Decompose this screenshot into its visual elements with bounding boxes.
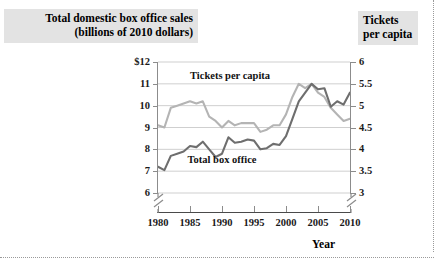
right-axis-tick: 5 [359, 100, 399, 111]
series-line-tickets-per-capita [158, 84, 350, 132]
right-axis-tick: 5.5 [359, 78, 399, 89]
x-axis-tick-mark [286, 206, 287, 212]
left-axis-tick: $12 [110, 56, 150, 67]
right-axis-tick-mark [350, 171, 356, 172]
x-axis-tick-mark [190, 206, 191, 212]
left-axis-tick-mark [153, 128, 158, 129]
right-axis-tick-mark [350, 193, 356, 194]
x-axis-tick: 2010 [330, 217, 370, 228]
left-axis-tick-mark [153, 106, 158, 107]
left-axis-tick-mark [153, 62, 158, 63]
left-axis-tick: 11 [110, 78, 150, 89]
left-axis-tick: 7 [110, 165, 150, 176]
x-axis-tick-mark [158, 206, 159, 212]
right-axis-tick: 3.5 [359, 165, 399, 176]
left-axis-break-icon [150, 193, 168, 213]
right-axis-tick: 4.5 [359, 122, 399, 133]
figure-border-bottom [0, 257, 434, 258]
right-axis-title: Tickets per capita [358, 11, 418, 45]
left-axis-tick-mark [153, 171, 158, 172]
x-axis-line [157, 212, 351, 213]
left-axis-title: Total domestic box office sales (billion… [4, 9, 198, 43]
x-axis-tick-mark [318, 206, 319, 212]
left-axis-tick-mark [153, 193, 158, 194]
annotation-total-box-office: Total box office [182, 154, 262, 166]
right-axis-tick-mark [350, 84, 356, 85]
left-axis-tick: 8 [110, 143, 150, 154]
right-axis-tick-mark [350, 62, 356, 63]
right-axis-tick: 4 [359, 143, 399, 154]
left-axis-tick: 9 [110, 122, 150, 133]
x-axis-tick-mark [254, 206, 255, 212]
annotation-tickets-per-capita: Tickets per capita [190, 70, 268, 82]
figure-border-right [433, 0, 434, 252]
left-axis-tick-mark [153, 84, 158, 85]
right-axis-tick-mark [350, 106, 356, 107]
x-axis-label: Year [312, 238, 335, 250]
x-axis-tick-mark [350, 206, 351, 212]
right-axis-tick: 6 [359, 56, 399, 67]
right-axis-tick-mark [350, 149, 356, 150]
right-axis-tick: 3 [359, 187, 399, 198]
chart-figure: Total domestic box office sales (billion… [0, 0, 436, 262]
left-axis-tick: 10 [110, 100, 150, 111]
x-axis-tick-mark [222, 206, 223, 212]
right-axis-tick-mark [350, 128, 356, 129]
left-axis-tick: 6 [110, 187, 150, 198]
left-axis-tick-mark [153, 149, 158, 150]
